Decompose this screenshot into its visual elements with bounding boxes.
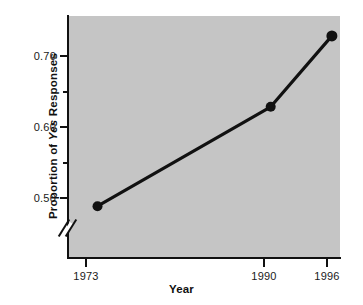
x-tick-label-1990: 1990: [251, 270, 276, 282]
y-tick-070: [60, 55, 68, 57]
x-axis-title: Year: [0, 283, 363, 295]
y-axis-title-emphasis: Yes: [47, 120, 59, 141]
y-tick-060: [60, 126, 68, 128]
x-tick-label-1996: 1996: [314, 270, 339, 282]
x-tick-1990: [263, 259, 265, 267]
y-axis-title: Proportion of Yes Responses: [47, 15, 59, 257]
plot-area: [68, 16, 340, 258]
x-tick-1973: [85, 259, 87, 267]
y-axis-break-icon: [57, 214, 81, 244]
y-tick-minor-065: [63, 91, 68, 93]
line-chart-figure: 0.70 0.60 0.50 1973 1990 1996 Year Propo…: [0, 0, 363, 305]
y-axis-title-before: Proportion of: [47, 140, 59, 219]
y-tick-minor-055: [63, 162, 68, 164]
x-tick-1996: [326, 259, 328, 267]
x-tick-label-1973: 1973: [73, 270, 98, 282]
y-tick-050: [60, 197, 68, 199]
y-axis-title-after: Responses: [47, 53, 59, 120]
